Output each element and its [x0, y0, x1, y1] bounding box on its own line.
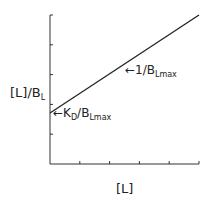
intercept-annotation: ←KD/BLmax: [53, 107, 111, 119]
y-axis: [50, 15, 53, 164]
x-axis-label: [L]: [116, 182, 133, 195]
slope-annotation: ←1/BLmax: [125, 64, 177, 76]
chart-plot: [0, 0, 208, 206]
x-axis: [50, 161, 199, 164]
y-axis-label: [L]/BL: [10, 86, 45, 99]
